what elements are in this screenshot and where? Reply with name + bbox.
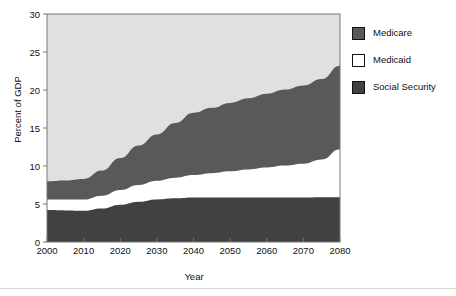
- legend-swatch-medicare: [352, 27, 365, 40]
- x-tick-label: 2050: [220, 245, 241, 256]
- legend-label-social-security: Social Security: [373, 82, 436, 92]
- x-axis-title: Year: [47, 271, 341, 282]
- y-tick-label: 25: [29, 47, 40, 58]
- x-tick-label: 2060: [256, 245, 277, 256]
- y-tick-label: 20: [29, 85, 40, 96]
- x-tick-label: 2040: [183, 245, 204, 256]
- legend-item-social-security[interactable]: Social Security: [352, 80, 456, 94]
- legend-label-medicaid: Medicaid: [373, 55, 411, 65]
- legend-label-medicare: Medicare: [373, 28, 412, 38]
- y-tick-label: 10: [29, 161, 40, 172]
- footer-divider: [0, 288, 456, 289]
- y-tick-label: 5: [35, 199, 40, 210]
- x-tick-label: 2080: [329, 245, 350, 256]
- legend-swatch-social-security: [352, 81, 365, 94]
- x-tick-label: 2010: [73, 245, 94, 256]
- x-tick-label: 2030: [146, 245, 167, 256]
- chart-figure: 0510152025302000201020202030204020502060…: [0, 0, 456, 296]
- legend-item-medicaid[interactable]: Medicaid: [352, 53, 456, 67]
- y-axis-title: Percent of GDP: [12, 65, 23, 155]
- y-tick-label: 15: [29, 123, 40, 134]
- legend-item-medicare[interactable]: Medicare: [352, 26, 456, 40]
- chart-legend: Medicare Medicaid Social Security: [352, 26, 456, 107]
- x-tick-label: 2000: [36, 245, 57, 256]
- legend-swatch-medicaid: [352, 54, 365, 67]
- x-tick-label: 2070: [293, 245, 314, 256]
- x-tick-label: 2020: [110, 245, 131, 256]
- y-tick-label: 30: [29, 9, 40, 20]
